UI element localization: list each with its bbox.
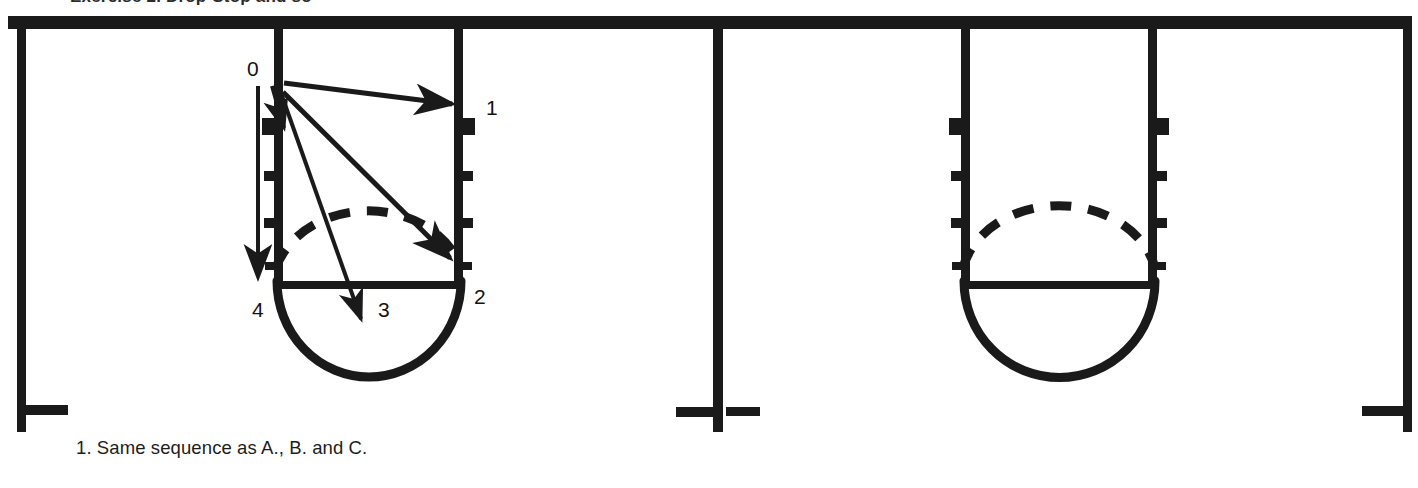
panel-right-dashed-arc xyxy=(963,206,1155,268)
panel-left-cross-bar xyxy=(277,281,462,289)
frame-foot-middle-left xyxy=(676,407,714,417)
panel-left-bowl xyxy=(277,281,461,377)
panel-left-tick-right-1 xyxy=(461,118,475,135)
panel-right-tick-left-3 xyxy=(951,218,963,228)
frame-top-rail xyxy=(8,16,1412,29)
panel-right-tick-left-2 xyxy=(951,171,963,181)
sequence-label-2: 2 xyxy=(474,286,486,307)
panel-right-tick-right-2 xyxy=(1155,171,1167,181)
panel-left-tick-left-2 xyxy=(264,171,276,181)
panel-left-tick-right-3 xyxy=(461,218,473,228)
sequence-label-0: 0 xyxy=(247,58,259,79)
panel-right-tick-right-3 xyxy=(1155,218,1167,228)
panel-left-tick-left-3 xyxy=(264,218,276,228)
frame-group xyxy=(8,16,1412,432)
frame-post-far-left xyxy=(17,29,26,432)
frame-foot-far-left xyxy=(26,405,68,415)
panel-right xyxy=(949,29,1169,378)
sequence-label-1: 1 xyxy=(486,97,498,118)
apparatus-diagram xyxy=(0,0,1418,488)
sequence-label-4: 4 xyxy=(252,299,264,320)
frame-post-middle xyxy=(713,29,723,432)
panel-right-tick-left-1 xyxy=(949,118,963,135)
panel-left-tick-right-2 xyxy=(461,171,473,181)
panel-right-tick-right-1 xyxy=(1155,118,1169,135)
panel-right-cross-bar xyxy=(964,281,1156,289)
figure-page: Exercise 2. Drop-Stop and so xyxy=(0,0,1418,488)
frame-post-far-right xyxy=(1403,29,1412,432)
arrow-to-position-1 xyxy=(284,83,452,104)
panel-left-post-right xyxy=(454,29,463,287)
sequence-label-3: 3 xyxy=(378,299,390,320)
panel-right-bowl xyxy=(964,281,1155,378)
figure-caption: 1. Same sequence as A., B. and C. xyxy=(76,437,367,459)
frame-foot-middle-right xyxy=(726,407,760,416)
panel-right-post-right xyxy=(1148,29,1157,287)
panel-left-tick-left-1 xyxy=(262,118,276,135)
frame-foot-far-right xyxy=(1362,406,1404,416)
panel-left xyxy=(258,29,475,377)
